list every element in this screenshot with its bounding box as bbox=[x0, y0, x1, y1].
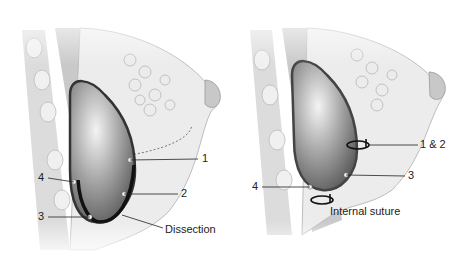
label-point-2: 2 bbox=[181, 188, 187, 199]
breast-cross-section-illustration bbox=[0, 0, 232, 260]
left-panel-dissection: 1 2 3 4 Dissection bbox=[0, 0, 232, 260]
label-points-1-and-2: 1 & 2 bbox=[420, 139, 446, 150]
right-panel-internal-suture: 1 & 2 3 4 Internal suture bbox=[232, 0, 464, 260]
label-point-4: 4 bbox=[38, 172, 44, 183]
label-point-3: 3 bbox=[38, 211, 44, 222]
label-dissection: Dissection bbox=[165, 224, 216, 235]
label-internal-suture: Internal suture bbox=[330, 206, 400, 217]
label-point-4: 4 bbox=[252, 181, 258, 192]
label-point-1: 1 bbox=[202, 153, 208, 164]
breast-cross-section-illustration bbox=[232, 0, 464, 260]
label-point-3: 3 bbox=[408, 170, 414, 181]
